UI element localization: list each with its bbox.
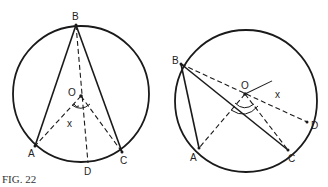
right-radius-OC [245,94,288,150]
right-angle-arc-small [235,103,254,108]
right-center-point [243,92,247,96]
left-label-B: B [72,11,79,22]
right-label-X: x [275,89,280,100]
right-label-C: C [288,153,295,164]
right-label-O: O [241,80,249,91]
left-chord-BC [76,25,122,152]
right-point-D [306,121,309,124]
left-diameter-BD [76,25,88,163]
right-label-B: B [172,55,179,66]
left-point-B [75,24,78,27]
right-label-D: D [311,120,318,131]
right-circle [175,30,317,172]
figure-left: B O x A C D [13,11,149,177]
left-label-C: C [120,155,127,166]
geometry-figure: B O x A C D B O x A C D FIG. 22 [0,0,328,187]
left-radius-OC [81,96,122,152]
left-center-point [79,94,83,98]
left-point-C [121,151,124,154]
right-radius-OA [199,94,245,148]
left-label-A: A [28,148,35,159]
left-label-X: x [67,118,72,129]
figure-right: B O x A C D [172,30,318,172]
left-label-O: O [68,87,76,98]
figure-caption: FIG. 22 [2,173,36,185]
left-label-D: D [84,166,91,177]
right-point-C [287,149,290,152]
right-point-B [180,63,183,66]
right-point-A [198,147,201,150]
left-radius-OA [35,96,81,146]
right-label-A: A [190,152,197,163]
left-circle [13,26,149,162]
